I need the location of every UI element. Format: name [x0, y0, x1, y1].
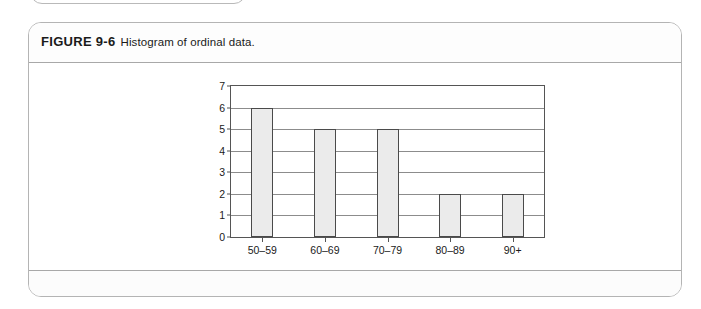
x-axis-tick-mark: [262, 237, 263, 242]
y-axis-tick-label: 0: [219, 232, 225, 243]
x-axis-tick-label: 90+: [504, 245, 522, 256]
x-axis-tick-label: 60–69: [310, 245, 339, 256]
y-axis-tick-mark: [227, 172, 231, 173]
x-axis-tick-mark: [450, 237, 451, 242]
figure-caption: FIGURE 9-6Histogram of ordinal data.: [41, 35, 255, 49]
figure-number: FIGURE 9-6: [41, 34, 116, 49]
y-axis-tick-label: 7: [219, 81, 225, 92]
y-axis-tick-label: 5: [219, 124, 225, 135]
y-axis-tick-mark: [227, 150, 231, 151]
y-axis-tick-mark: [227, 237, 231, 238]
y-axis-tick-mark: [227, 129, 231, 130]
plot-area: 01234567 50–5960–6970–7980–8990+: [230, 85, 545, 238]
bar: [439, 194, 461, 237]
y-axis-tick-label: 3: [219, 167, 225, 178]
y-axis-tick-mark: [227, 193, 231, 194]
y-axis-tick-label: 2: [219, 189, 225, 200]
x-axis-tick-mark: [513, 237, 514, 242]
figure-header: FIGURE 9-6Histogram of ordinal data.: [29, 23, 681, 63]
y-axis-tick-label: 4: [219, 145, 225, 156]
x-axis-tick-mark: [325, 237, 326, 242]
y-axis-tick-mark: [227, 86, 231, 87]
figure-footer: [29, 270, 681, 296]
y-axis-tick-label: 6: [219, 102, 225, 113]
histogram-chart: 01234567 50–5960–6970–7980–8990+: [174, 85, 514, 265]
y-axis-tick-mark: [227, 215, 231, 216]
figure-description: Histogram of ordinal data.: [121, 36, 255, 48]
gridline: [231, 108, 544, 109]
x-axis-tick-label: 70–79: [373, 245, 402, 256]
x-axis-tick-mark: [388, 237, 389, 242]
y-axis-tick-mark: [227, 107, 231, 108]
figure-card: FIGURE 9-6Histogram of ordinal data. 012…: [28, 22, 682, 297]
bar: [502, 194, 524, 237]
x-axis-tick-label: 80–89: [435, 245, 464, 256]
partial-card-above: [30, 0, 246, 4]
x-axis-tick-label: 50–59: [248, 245, 277, 256]
bar: [314, 129, 336, 237]
figure-body: 01234567 50–5960–6970–7980–8990+: [29, 63, 681, 270]
bar: [251, 108, 273, 237]
bar: [377, 129, 399, 237]
y-axis-tick-label: 1: [219, 210, 225, 221]
